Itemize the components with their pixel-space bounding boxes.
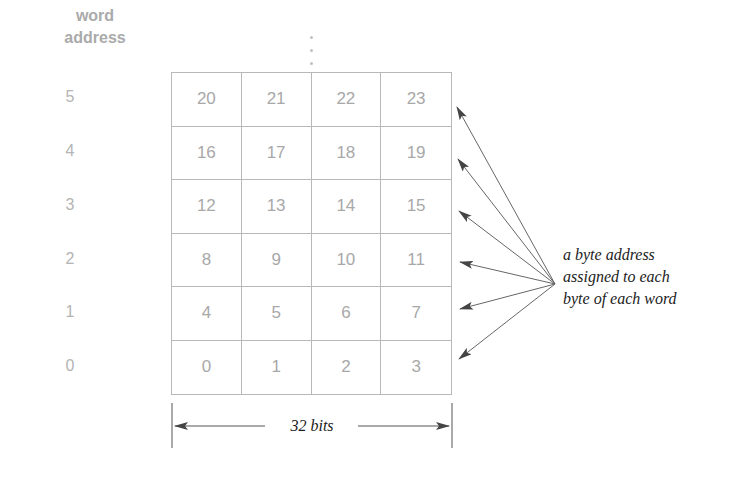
- word-width-label: 32 bits: [262, 417, 362, 435]
- arrow-icon: [460, 284, 555, 309]
- arrow-icon: [459, 284, 555, 359]
- pointer-arrows: [457, 107, 555, 359]
- caption-line: assigned to each: [563, 266, 677, 288]
- arrow-icon: [457, 107, 555, 284]
- caption-line: byte of each word: [563, 288, 677, 310]
- byte-address-caption: a byte address assigned to each byte of …: [563, 244, 677, 310]
- arrows-layer: [0, 0, 744, 481]
- caption-line: a byte address: [563, 244, 677, 266]
